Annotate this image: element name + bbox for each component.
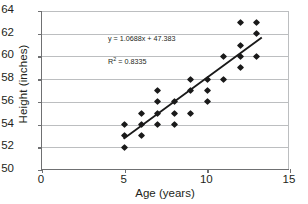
x-axis-title: Age (years) — [41, 187, 289, 199]
y-axis-tick-mark — [38, 11, 42, 12]
y-axis-tick-mark — [38, 34, 42, 35]
y-axis-tick-mark — [38, 79, 42, 80]
x-axis-tick-label: 0 — [21, 173, 61, 185]
r-squared-label: R2 = 0.8335 — [108, 56, 146, 66]
y-axis-tick-mark — [38, 56, 42, 57]
x-axis-tick-label: 10 — [186, 173, 226, 185]
y-axis-tick-label: 60 — [0, 48, 14, 60]
r-squared-value: = 0.8335 — [116, 57, 146, 66]
x-axis-tick-label: 5 — [104, 173, 144, 185]
trendline-equation-label: y = 1.0688x + 47.383 — [108, 34, 176, 43]
y-axis-tick-label: 50 — [0, 162, 14, 174]
y-axis-tick-label: 52 — [0, 139, 14, 151]
y-axis-tick-label: 56 — [0, 94, 14, 106]
y-axis-tick-label: 58 — [0, 71, 14, 83]
y-axis-tick-label: 64 — [0, 3, 14, 15]
y-axis-tick-label: 62 — [0, 26, 14, 38]
y-axis-tick-mark — [38, 147, 42, 148]
y-axis-tick-mark — [38, 102, 42, 103]
plot-area: y = 1.0688x + 47.383 R2 = 0.8335 — [41, 11, 289, 170]
y-axis-title: Height (inches) — [17, 14, 29, 154]
y-axis-tick-mark — [38, 125, 42, 126]
scatter-chart: Height (inches) 5052545658606264 y = 1.0… — [0, 0, 308, 204]
y-axis-tick-label: 54 — [0, 117, 14, 129]
x-axis-tick-label: 15 — [269, 173, 308, 185]
